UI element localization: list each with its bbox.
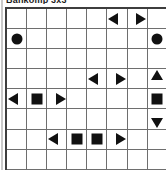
grid-cell[interactable] [107, 129, 127, 149]
grid-cell[interactable] [127, 8, 147, 29]
grid-cell[interactable] [107, 149, 127, 169]
grid-row [6, 89, 166, 109]
grid-cell[interactable] [27, 169, 47, 170]
grid-cell[interactable] [47, 149, 67, 169]
grid-cell[interactable] [67, 49, 87, 69]
grid-cell[interactable] [87, 129, 107, 149]
filled-square-icon [27, 89, 46, 108]
right-pointing-triangle-icon [47, 89, 66, 108]
down-pointing-triangle-glyph [151, 118, 163, 128]
up-pointing-triangle-icon [148, 69, 166, 88]
grid-cell[interactable] [67, 109, 87, 129]
grid-cell[interactable] [6, 169, 27, 170]
grid-cell[interactable] [147, 29, 166, 49]
grid-cell[interactable] [127, 109, 147, 129]
grid-cell[interactable] [6, 49, 27, 69]
grid-cell[interactable] [27, 49, 47, 69]
left-pointing-triangle-glyph [48, 133, 58, 145]
puzzle-grid-body [6, 8, 166, 170]
grid-cell[interactable] [27, 8, 47, 29]
grid-cell[interactable] [27, 129, 47, 149]
grid-cell[interactable] [27, 89, 47, 109]
grid-cell[interactable] [147, 69, 166, 89]
grid-cell[interactable] [67, 69, 87, 89]
grid-cell[interactable] [147, 49, 166, 69]
grid-cell[interactable] [87, 69, 107, 89]
filled-square-icon [148, 89, 166, 108]
grid-cell[interactable] [147, 8, 166, 29]
grid-cell[interactable] [147, 129, 166, 149]
grid-cell[interactable] [127, 149, 147, 169]
grid-cell[interactable] [6, 89, 27, 109]
grid-cell[interactable] [67, 89, 87, 109]
filled-square-glyph [152, 93, 163, 104]
grid-cell[interactable] [127, 89, 147, 109]
grid-cell[interactable] [107, 169, 127, 170]
grid-row [6, 129, 166, 149]
grid-row [6, 109, 166, 129]
grid-cell[interactable] [87, 29, 107, 49]
filled-square-icon [67, 130, 86, 149]
grid-cell[interactable] [6, 149, 27, 169]
grid-cell[interactable] [27, 69, 47, 89]
left-pointing-triangle-glyph [88, 73, 98, 85]
grid-cell[interactable] [67, 149, 87, 169]
grid-cell[interactable] [107, 29, 127, 49]
filled-circle-icon [148, 29, 166, 48]
grid-cell[interactable] [87, 169, 107, 170]
up-pointing-triangle-glyph [151, 70, 163, 80]
left-pointing-triangle-glyph [8, 93, 18, 105]
grid-cell[interactable] [87, 89, 107, 109]
grid-cell[interactable] [87, 49, 107, 69]
grid-cell[interactable] [67, 129, 87, 149]
grid-cell[interactable] [87, 8, 107, 29]
right-pointing-triangle-glyph [136, 13, 146, 25]
down-pointing-triangle-icon [148, 109, 166, 128]
right-pointing-triangle-glyph [56, 93, 66, 105]
grid-cell[interactable] [107, 109, 127, 129]
grid-cell[interactable] [27, 109, 47, 129]
puzzle-grid[interactable] [5, 7, 166, 170]
grid-cell[interactable] [6, 29, 27, 49]
grid-cell[interactable] [107, 89, 127, 109]
grid-cell[interactable] [127, 29, 147, 49]
grid-cell[interactable] [87, 109, 107, 129]
grid-cell[interactable] [127, 129, 147, 149]
grid-cell[interactable] [127, 169, 147, 170]
grid-cell[interactable] [67, 8, 87, 29]
grid-cell[interactable] [107, 69, 127, 89]
grid-cell[interactable] [127, 49, 147, 69]
grid-cell[interactable] [6, 109, 27, 129]
grid-cell[interactable] [47, 49, 67, 69]
grid-cell[interactable] [67, 169, 87, 170]
grid-cell[interactable] [47, 29, 67, 49]
grid-cell[interactable] [147, 169, 166, 170]
grid-row [6, 29, 166, 49]
grid-cell[interactable] [27, 29, 47, 49]
grid-cell[interactable] [47, 89, 67, 109]
grid-cell[interactable] [87, 149, 107, 169]
filled-circle-glyph [152, 33, 163, 44]
left-pointing-triangle-icon [7, 89, 26, 108]
grid-cell[interactable] [147, 89, 166, 109]
filled-square-glyph [91, 134, 102, 145]
page-title: Bankomp 3x3 [6, 0, 156, 4]
grid-cell[interactable] [47, 129, 67, 149]
grid-cell[interactable] [147, 149, 166, 169]
grid-cell[interactable] [67, 29, 87, 49]
grid-cell[interactable] [27, 149, 47, 169]
puzzle-page: Bankomp 3x3 [0, 0, 166, 170]
grid-cell[interactable] [6, 8, 27, 29]
grid-cell[interactable] [47, 69, 67, 89]
grid-cell[interactable] [47, 8, 67, 29]
grid-cell[interactable] [47, 109, 67, 129]
grid-cell[interactable] [127, 69, 147, 89]
left-pointing-triangle-icon [107, 9, 126, 28]
grid-cell[interactable] [6, 129, 27, 149]
grid-cell[interactable] [107, 8, 127, 29]
left-pointing-triangle-icon [47, 130, 66, 149]
grid-cell[interactable] [6, 69, 27, 89]
grid-cell[interactable] [147, 109, 166, 129]
grid-cell[interactable] [47, 169, 67, 170]
grid-cell[interactable] [107, 49, 127, 69]
